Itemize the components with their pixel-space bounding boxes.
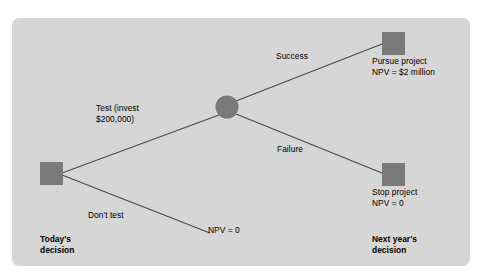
branch-line-dont-test	[62, 175, 210, 233]
stage-label-today: Today's decision	[40, 234, 74, 255]
node-root-decision	[40, 162, 63, 185]
branch-label-test: Test (invest $200,000)	[96, 103, 139, 124]
node-stop-decision	[382, 163, 405, 186]
node-pursue-decision	[382, 32, 405, 55]
branch-line-failure	[236, 114, 382, 173]
branch-line-test	[62, 115, 219, 173]
outcome-label-dont-test: NPV = 0	[208, 225, 240, 236]
branch-label-dont-test: Don't test	[88, 210, 124, 221]
decision-tree-panel: Test (invest $200,000) Don't test NPV = …	[12, 18, 470, 266]
outcome-label-pursue-project: Pursue project NPV = $2 million	[372, 56, 435, 77]
branch-label-success: Success	[276, 51, 308, 62]
branch-line-success	[236, 44, 382, 101]
outcome-label-stop-project: Stop project NPV = 0	[372, 187, 417, 208]
branch-label-failure: Failure	[277, 144, 303, 155]
node-chance	[216, 96, 239, 119]
stage-label-next-year: Next year's decision	[372, 234, 417, 255]
